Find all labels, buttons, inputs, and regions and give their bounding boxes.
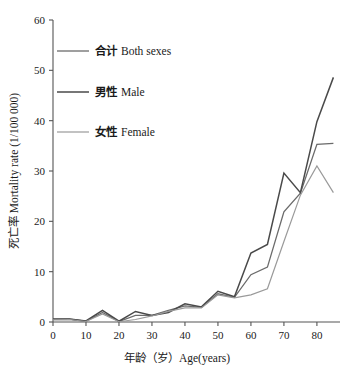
x-axis-title: 年龄（岁）Age(years) bbox=[124, 351, 230, 365]
legend-label-cn: 女性 bbox=[95, 125, 118, 138]
x-tick-label: 50 bbox=[212, 329, 224, 341]
series-line bbox=[53, 143, 333, 321]
series-line bbox=[53, 77, 333, 321]
legend-label: 合计Both sexes bbox=[95, 44, 172, 57]
x-tick-label: 40 bbox=[179, 329, 191, 341]
x-tick-label: 10 bbox=[80, 329, 92, 341]
axes bbox=[53, 20, 340, 322]
y-tick-label: 20 bbox=[34, 215, 46, 227]
x-axis-tick-labels: 01020304050607080 bbox=[50, 329, 323, 341]
y-tick-label: 50 bbox=[34, 64, 46, 76]
line-chart: 0102030405060 01020304050607080 合计Both s… bbox=[0, 0, 353, 383]
legend-label-cn: 合计 bbox=[95, 44, 118, 57]
x-tick-label: 30 bbox=[146, 329, 158, 341]
series-line bbox=[53, 166, 333, 322]
data-series-group bbox=[53, 77, 333, 321]
y-tick-label: 30 bbox=[34, 165, 46, 177]
y-tick-label: 10 bbox=[34, 266, 46, 278]
y-tick-label: 40 bbox=[34, 115, 46, 127]
y-tick-label: 60 bbox=[34, 14, 46, 26]
x-tick-label: 70 bbox=[278, 329, 290, 341]
legend-label-en: Female bbox=[121, 126, 155, 138]
y-tick-label: 0 bbox=[40, 316, 46, 328]
legend-label-cn: 男性 bbox=[95, 85, 118, 98]
legend-label: 女性Female bbox=[95, 125, 155, 138]
tick-marks bbox=[49, 20, 317, 326]
x-tick-label: 0 bbox=[50, 329, 56, 341]
legend-label-en: Both sexes bbox=[121, 45, 172, 57]
chart-legend: 合计Both sexes男性Male女性Female bbox=[57, 44, 172, 138]
x-tick-label: 60 bbox=[245, 329, 257, 341]
y-axis-title: 死亡率 Mortality rate (1/100 000) bbox=[7, 93, 21, 249]
legend-label: 男性Male bbox=[95, 85, 145, 98]
figure-caption-partial bbox=[16, 373, 341, 382]
legend-label-en: Male bbox=[121, 86, 145, 98]
x-tick-label: 80 bbox=[311, 329, 323, 341]
x-tick-label: 20 bbox=[113, 329, 125, 341]
figure-container: 0102030405060 01020304050607080 合计Both s… bbox=[0, 0, 353, 383]
y-axis-tick-labels: 0102030405060 bbox=[34, 14, 46, 328]
